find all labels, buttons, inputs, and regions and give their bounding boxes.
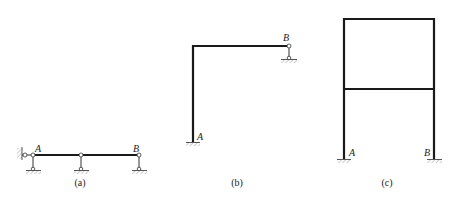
fixed-support-a [186, 143, 200, 146]
support-b [132, 153, 147, 174]
label-a: A [34, 143, 42, 154]
support-a [26, 153, 41, 174]
figure-c: A B (c) [337, 19, 442, 189]
label-b: B [133, 143, 139, 154]
label-b: B [283, 32, 289, 43]
fixed-support-a [337, 160, 351, 163]
caption-b: (b) [231, 177, 243, 189]
frame-members [193, 46, 288, 142]
figure-a: A B (a) [17, 143, 147, 189]
label-a: A [348, 147, 356, 158]
caption-a: (a) [74, 177, 85, 189]
wall-hatch [17, 148, 22, 159]
label-b: B [424, 147, 430, 158]
support-middle [74, 153, 89, 174]
label-a: A [196, 131, 204, 142]
fixed-support-b [427, 160, 442, 163]
structures-diagram: A B (a) A B (b) A B (c) [0, 0, 467, 201]
figure-b: A B (b) [186, 32, 297, 189]
caption-c: (c) [381, 177, 392, 189]
